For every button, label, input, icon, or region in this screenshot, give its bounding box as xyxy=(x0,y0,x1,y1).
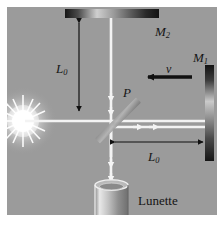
label-mirror-m1: M1 xyxy=(193,51,208,65)
label-arm-horizontal: L0 xyxy=(148,150,159,164)
label-telescope: Lunette xyxy=(138,193,178,209)
diagram-panel: M2 M1 P v L0 L0 Lunette xyxy=(7,7,217,215)
label-arm-vertical: L0 xyxy=(56,62,67,76)
mirror-m2 xyxy=(65,9,159,18)
telescope-lunette xyxy=(95,180,128,215)
diagram-canvas xyxy=(7,7,217,215)
label-mirror-m2: M2 xyxy=(155,25,170,39)
label-velocity: v xyxy=(166,63,171,75)
beam-paths xyxy=(25,15,207,183)
label-beam-splitter: P xyxy=(123,86,131,99)
figure-michelson-interferometer: M2 M1 P v L0 L0 Lunette xyxy=(0,0,224,225)
mirror-m1 xyxy=(205,65,214,161)
